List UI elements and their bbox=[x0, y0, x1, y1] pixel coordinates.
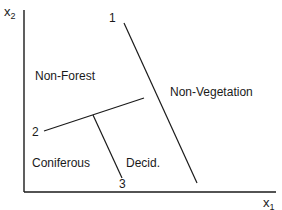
region-label-non-forest: Non-Forest bbox=[35, 70, 95, 82]
boundary-label-1: 1 bbox=[109, 12, 116, 24]
region-label-non-vegetation: Non-Vegetation bbox=[170, 86, 253, 98]
boundary-label-2: 2 bbox=[32, 126, 39, 138]
region-label-deciduous: Decid. bbox=[126, 157, 160, 169]
boundary-label-3: 3 bbox=[119, 178, 126, 190]
boundary-line-2 bbox=[44, 98, 144, 131]
y-axis-label-base: x bbox=[4, 4, 11, 19]
region-label-coniferous: Coniferous bbox=[32, 157, 90, 169]
diagram-canvas bbox=[0, 0, 282, 210]
y-axis-label: x2 bbox=[4, 5, 16, 18]
y-axis-label-subscript: 2 bbox=[11, 11, 16, 21]
boundary-line-3 bbox=[93, 115, 122, 178]
x-axis-label-base: x bbox=[263, 195, 270, 210]
x-axis-label: x1 bbox=[263, 196, 275, 209]
decision-boundary-diagram: x2 x1 1 2 3 Non-Forest Non-Vegetation Co… bbox=[0, 0, 282, 210]
x-axis-label-subscript: 1 bbox=[270, 202, 275, 210]
